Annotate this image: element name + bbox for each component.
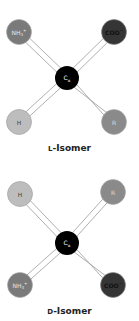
d-r-label: R: [111, 189, 115, 196]
isomer-diagram: NH3+ COO− Cα H R H R Cα NH3+ COO−: [0, 0, 139, 321]
d-isomer-caption: D-Isomer: [0, 306, 139, 316]
d-isomer-caption-suffix: -Isomer: [53, 306, 92, 316]
l-h-label: H: [17, 119, 22, 126]
l-isomer-caption-suffix: -Isomer: [52, 143, 91, 153]
l-r-label: R: [112, 119, 116, 126]
d-h-label: H: [18, 191, 23, 198]
l-isomer-caption: L-Isomer: [0, 143, 139, 153]
l-isomer-labels: NH3+ COO− Cα H R: [12, 28, 123, 126]
